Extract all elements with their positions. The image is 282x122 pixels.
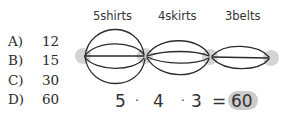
factor-shirts: 5 (115, 91, 126, 111)
equals-sign: = (212, 91, 226, 111)
label-belts: 3belts (225, 9, 260, 23)
belt-paths (212, 46, 269, 68)
multiply-operator: · (135, 94, 139, 108)
factor-belts: 3 (191, 91, 202, 111)
equation-result: 60 (231, 91, 253, 111)
combination-diagram: 5shirts 4skirts 3belts 5 · 4 · 3 = 60 (0, 0, 282, 122)
label-skirts: 4skirts (158, 9, 196, 23)
multiply-operator: · (181, 94, 185, 108)
shirt-paths (85, 29, 145, 83)
label-shirts: 5shirts (93, 9, 132, 23)
factor-skirts: 4 (153, 91, 164, 111)
skirt-paths (147, 41, 209, 75)
